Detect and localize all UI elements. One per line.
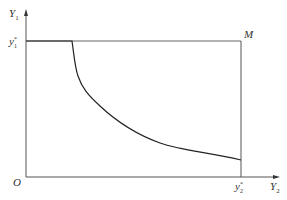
y-axis-arrow-icon [24,9,28,16]
y1-star-label: y1* [8,35,17,49]
x-axis-arrow-icon [273,175,280,179]
corner-label-m: M [243,28,254,40]
x-axis-label: Y2 [270,180,280,195]
frontier-curve [26,41,241,160]
y2-star-label: y2* [234,180,243,194]
origin-label: O [13,176,21,188]
pareto-diagram: Y1 y1* M O y2* Y2 [0,0,287,200]
y-axis-label: Y1 [9,7,19,22]
